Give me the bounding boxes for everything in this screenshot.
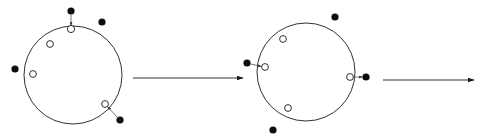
stage-2-open-marker-lower-left [285, 105, 292, 112]
diagram-canvas [0, 0, 480, 139]
stage-1-open-marker-left [30, 71, 37, 78]
stage-2-circle-outline [257, 23, 355, 121]
stage-2-filled-marker-bottom-outside [269, 126, 276, 133]
stage-2-filled-marker-right-outside [362, 73, 369, 80]
stage-1-filled-marker-upper-right [98, 18, 105, 25]
stage-1-open-marker-top [67, 25, 74, 32]
stage-1-circle-outline [24, 26, 122, 124]
stage-2-open-marker-left [262, 64, 269, 71]
stage-1-open-marker-upper-left [47, 41, 54, 48]
stage-2-group [243, 13, 369, 133]
stage-1-filled-marker-lower-right [116, 116, 123, 123]
stage-1-filled-marker-top [67, 7, 74, 14]
stage-2-connector-left [251, 64, 262, 66]
stage-1-open-marker-lower-right [102, 101, 109, 108]
stage-2-filled-marker-left-outside [243, 59, 250, 66]
diagram-svg [0, 0, 480, 139]
stage-2-open-marker-upper-left [280, 36, 287, 43]
stage-1-connector-lower-right [108, 107, 118, 118]
stage-2-filled-marker-upper-right [331, 13, 338, 20]
stage-2-open-marker-right [347, 74, 354, 81]
stage-1-filled-marker-left-outside [11, 65, 18, 72]
stage-1-group [11, 7, 123, 124]
